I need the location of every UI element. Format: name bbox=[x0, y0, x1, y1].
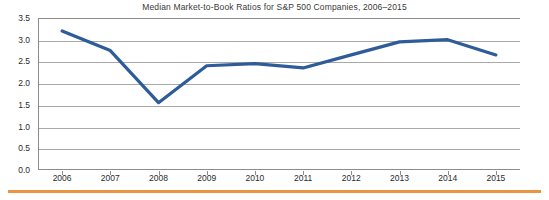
y-axis-tick-label: 2.0 bbox=[18, 78, 30, 88]
chart-figure: Median Market-to-Book Ratios for S&P 500… bbox=[0, 0, 549, 200]
x-axis-tick-label: 2011 bbox=[294, 173, 312, 183]
series-line-layer bbox=[38, 18, 520, 170]
y-axis-tick-label: 0.5 bbox=[18, 143, 30, 153]
series-line-median-market-to-book bbox=[62, 31, 496, 103]
x-axis-tick-labels: 2006200720082009201020112012201320142015 bbox=[38, 171, 520, 189]
x-axis-tick-label: 2009 bbox=[197, 173, 216, 183]
x-axis-tick-label: 2007 bbox=[101, 173, 120, 183]
chart-title: Median Market-to-Book Ratios for S&P 500… bbox=[0, 2, 549, 12]
x-axis-tick-label: 2014 bbox=[438, 173, 457, 183]
x-axis-tick-label: 2013 bbox=[390, 173, 409, 183]
x-axis-tick-label: 2006 bbox=[53, 173, 72, 183]
y-axis-tick-label: 2.5 bbox=[18, 56, 30, 66]
y-axis-tick-label: 1.5 bbox=[18, 100, 30, 110]
x-axis-tick-label: 2015 bbox=[486, 173, 505, 183]
y-axis-tick-label: 0.0 bbox=[18, 165, 30, 175]
x-axis-tick-label: 2010 bbox=[245, 173, 264, 183]
x-axis-tick-label: 2008 bbox=[149, 173, 168, 183]
x-axis-tick-label: 2012 bbox=[342, 173, 361, 183]
y-axis-tick-label: 1.0 bbox=[18, 122, 30, 132]
y-axis-tick-label: 3.0 bbox=[18, 35, 30, 45]
footer-rule bbox=[8, 190, 541, 193]
y-axis-tick-labels: 0.00.51.01.52.02.53.03.5 bbox=[0, 18, 34, 170]
y-axis-tick-label: 3.5 bbox=[18, 13, 30, 23]
